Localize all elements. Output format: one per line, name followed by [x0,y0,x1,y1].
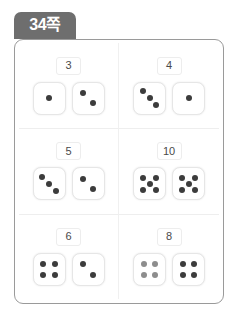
problem-grid: 3451068 [15,40,223,303]
sum-box[interactable]: 6 [56,228,81,246]
die-icon [72,253,105,286]
problem-cell: 4 [119,43,219,128]
dice-pair [133,167,205,200]
die-icon [172,82,205,115]
die-icon [133,253,166,286]
die-icon [33,167,66,200]
die-pip [40,261,46,267]
die-pip [179,175,185,181]
sum-value: 5 [65,146,71,157]
sum-box[interactable]: 10 [157,142,182,160]
die-pip [90,272,96,278]
die-pip [186,95,192,101]
die-pip [52,261,58,267]
die-pip [52,272,58,278]
dice-pair [133,82,205,115]
die-pip [153,102,159,108]
die-pip [153,175,159,181]
die-icon [172,167,205,200]
die-pip [191,272,197,278]
die-pip [147,95,153,101]
die-pip [179,187,185,193]
problem-cell: 6 [19,214,119,299]
die-pip [152,272,158,278]
sum-value: 4 [166,60,172,71]
sum-box[interactable]: 8 [157,228,182,246]
die-pip [40,272,46,278]
die-pip [53,188,59,194]
sum-box[interactable]: 5 [56,142,81,160]
sum-box[interactable]: 4 [157,57,182,75]
die-icon [72,167,105,200]
die-pip [140,187,146,193]
die-pip [147,181,153,187]
die-pip [186,181,192,187]
dice-pair [33,253,105,286]
die-icon [172,253,205,286]
die-pip [90,186,96,192]
sum-value: 8 [166,231,172,242]
dice-pair [33,167,105,200]
problem-cell: 10 [119,128,219,213]
dice-pair [33,82,105,115]
die-pip [46,95,52,101]
dice-pair [133,253,205,286]
die-pip [141,261,147,267]
die-pip [153,187,159,193]
die-pip [140,175,146,181]
sum-value: 10 [163,146,175,157]
die-pip [46,181,52,187]
die-icon [33,82,66,115]
die-icon [72,82,105,115]
die-pip [180,261,186,267]
die-pip [90,100,96,106]
die-pip [140,88,146,94]
die-pip [141,272,147,278]
die-pip [192,187,198,193]
die-icon [133,167,166,200]
problem-cell: 5 [19,128,119,213]
worksheet-card: 3451068 [14,39,224,304]
die-pip [80,176,86,182]
die-pip [80,90,86,96]
die-icon [33,253,66,286]
sum-box[interactable]: 3 [56,57,81,75]
problem-cell: 8 [119,214,219,299]
die-pip [80,261,86,267]
die-pip [180,272,186,278]
page-number-tab: 34쪽 [14,12,76,39]
die-pip [192,175,198,181]
problem-cell: 3 [19,43,119,128]
sum-value: 6 [65,231,71,242]
page-number-label: 34쪽 [29,17,61,33]
die-pip [39,174,45,180]
die-pip [152,261,158,267]
die-icon [133,82,166,115]
die-pip [191,261,197,267]
sum-value: 3 [65,60,71,71]
